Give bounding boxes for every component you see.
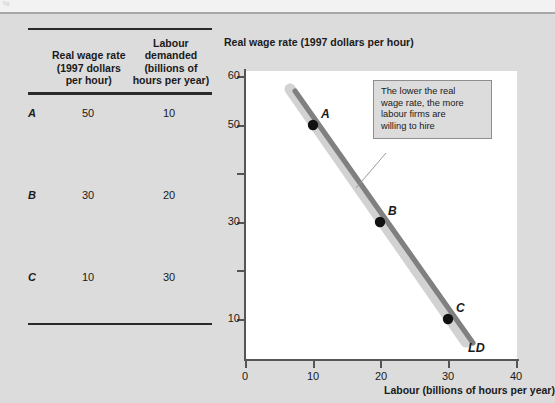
header-col2-line2: demanded [130, 49, 212, 62]
table-header-col2: Labour demanded (billions of hours per y… [130, 37, 212, 87]
row-point-label: B [28, 177, 50, 201]
data-point-C[interactable] [443, 314, 453, 324]
x-axis-title: Labour (billions of hours per year) [384, 384, 555, 396]
callout-line-4: willing to hire [381, 121, 485, 133]
row-point-label: A [28, 95, 50, 119]
figure-panel: Real wage rate (1997 dollars per hour) L… [0, 14, 555, 403]
header-col1-line3: per hour) [48, 74, 130, 87]
header-col2-line4: hours per year) [130, 74, 212, 87]
row-labour-demanded: 30 [126, 259, 212, 283]
header-col2-line3: (billions of [130, 62, 212, 75]
data-point-A[interactable] [308, 120, 318, 130]
top-strip: fig. [0, 0, 555, 12]
data-point-label-B: B [388, 204, 397, 218]
figure-root: fig. Real wage rate (1997 dollars per ho… [0, 0, 555, 403]
table-row: B 30 20 [28, 177, 212, 259]
table-row: C 10 30 [28, 259, 212, 323]
table-body: A 50 10 B 30 20 C 10 30 [28, 95, 212, 323]
row-real-wage-rate: 10 [50, 259, 126, 283]
chart: Real wage rate (1997 dollars per hour) 6… [216, 36, 546, 396]
row-real-wage-rate: 30 [50, 177, 126, 201]
row-point-label: C [28, 259, 50, 283]
header-col1-line2: (1997 dollars [48, 62, 130, 75]
table-header-col1: Real wage rate (1997 dollars per hour) [48, 37, 130, 87]
table-header-row: Real wage rate (1997 dollars per hour) L… [28, 30, 212, 92]
data-table: Real wage rate (1997 dollars per hour) L… [28, 28, 212, 325]
callout-line-3: labour firms are [381, 109, 485, 121]
row-real-wage-rate: 50 [50, 95, 126, 119]
table-bottom-rule [28, 323, 212, 325]
table-row: A 50 10 [28, 95, 212, 177]
row-labour-demanded: 20 [126, 177, 212, 201]
top-faint-note: fig. [3, 0, 11, 6]
callout-annotation: The lower the real wage rate, the more l… [373, 80, 492, 139]
header-col1-line1: Real wage rate [48, 49, 130, 62]
row-labour-demanded: 10 [126, 95, 212, 119]
callout-leader-line [356, 153, 386, 188]
callout-line-2: wage rate, the more [381, 98, 485, 110]
callout-line-1: The lower the real [381, 86, 485, 98]
data-point-B[interactable] [375, 217, 385, 227]
header-col2-line1: Labour [130, 37, 212, 50]
curve-label-LD: LD [468, 341, 485, 355]
data-point-label-A: A [321, 107, 330, 121]
data-point-label-C: C [456, 301, 465, 315]
